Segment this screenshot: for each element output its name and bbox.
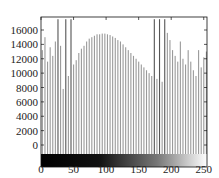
- x-tick-label: 250: [195, 163, 212, 175]
- histogram-bar: [96, 34, 97, 154]
- histogram-bar: [86, 42, 87, 155]
- histogram-bar: [180, 42, 181, 155]
- histogram-bar: [47, 62, 48, 154]
- histogram-bars: [42, 19, 207, 154]
- histogram-bar: [68, 76, 69, 154]
- histogram-bar: [110, 35, 111, 154]
- histogram-bar: [125, 47, 126, 154]
- histogram-bar: [130, 53, 131, 154]
- histogram-bar: [203, 57, 204, 154]
- x-tick-label: 50: [68, 163, 80, 175]
- histogram-bar: [201, 67, 202, 154]
- y-tick-label: 10000: [11, 67, 39, 79]
- histogram-bar: [195, 76, 196, 154]
- histogram-bar: [182, 59, 183, 154]
- histogram-bar: [91, 37, 92, 154]
- y-tick-label: 16000: [11, 24, 39, 36]
- grayscale-colorbar: [41, 154, 207, 167]
- y-tick-label: 2000: [16, 125, 39, 137]
- histogram-bar: [94, 36, 95, 154]
- histogram-bar: [83, 46, 84, 154]
- histogram-bar: [104, 34, 105, 154]
- histogram-bar: [151, 76, 152, 154]
- histogram-bar: [76, 60, 77, 154]
- histogram-bar: [99, 34, 100, 154]
- histogram-bar: [190, 62, 191, 154]
- histogram-bar: [63, 89, 64, 154]
- x-tick-label: 100: [98, 163, 115, 175]
- histogram-bar: [193, 70, 194, 154]
- histogram-bar: [198, 50, 199, 154]
- histogram-bar: [60, 46, 61, 154]
- x-tick-label: 150: [130, 163, 147, 175]
- histogram-bar: [65, 19, 66, 154]
- histogram-bar: [44, 37, 45, 154]
- histogram-bar: [112, 36, 113, 154]
- histogram-bar: [167, 33, 168, 154]
- histogram-bar: [52, 56, 53, 154]
- histogram-bar: [55, 42, 56, 155]
- histogram-bar: [89, 39, 90, 154]
- histogram-bar: [175, 56, 176, 154]
- histogram-bar: [50, 47, 51, 154]
- histogram-bar: [102, 34, 103, 154]
- histogram-bar: [185, 65, 186, 155]
- histogram-chart: 0200040006000800010000120001400016000 05…: [0, 0, 219, 178]
- y-tick-label: 8000: [16, 82, 39, 94]
- histogram-bar: [138, 62, 139, 154]
- histogram-bar: [123, 44, 124, 154]
- histogram-bar: [149, 73, 150, 154]
- histogram-bar: [162, 82, 163, 154]
- y-tick-label: 14000: [11, 38, 39, 50]
- histogram-bar: [81, 49, 82, 154]
- histogram-bar: [188, 50, 189, 154]
- histogram-bar: [164, 19, 165, 154]
- histogram-bar: [73, 65, 74, 155]
- histogram-bar: [146, 70, 147, 154]
- histogram-bar: [169, 40, 170, 154]
- histogram-bar: [172, 50, 173, 154]
- histogram-bar: [143, 67, 144, 154]
- histogram-bar: [57, 19, 58, 154]
- y-tick-label: 12000: [11, 53, 39, 65]
- histogram-bar: [156, 79, 157, 154]
- histogram-bar: [78, 53, 79, 154]
- x-tick-label: 0: [38, 163, 44, 175]
- histogram-bar: [141, 65, 142, 155]
- histogram-bar: [159, 19, 160, 154]
- histogram-bar: [70, 19, 71, 154]
- histogram-bar: [107, 34, 108, 154]
- histogram-bar: [117, 40, 118, 154]
- histogram-bar: [115, 38, 116, 154]
- histogram-bar: [154, 19, 155, 154]
- x-tick-label: 200: [163, 163, 180, 175]
- histogram-bar: [133, 56, 134, 154]
- histogram-bar: [120, 42, 121, 155]
- y-tick-label: 6000: [16, 96, 39, 108]
- y-tick-label: 4000: [16, 110, 39, 122]
- histogram-bar: [136, 59, 137, 154]
- y-tick-label: 0: [33, 139, 39, 151]
- histogram-bar: [128, 50, 129, 154]
- histogram-bar: [177, 62, 178, 154]
